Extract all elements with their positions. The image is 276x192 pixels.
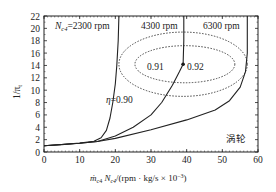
y-axis-label: 1/πt: [12, 85, 23, 99]
x-tick-label: 30: [146, 155, 156, 165]
y-tick-label: 4: [35, 123, 40, 133]
y-tick-label: 0: [35, 148, 40, 158]
svg-text:1/πt: 1/πt: [12, 85, 23, 99]
y-tick-label: 14: [31, 61, 41, 71]
y-tick-label: 8: [35, 98, 40, 108]
svg-text:ṁc4 Nc4/(rpm · kg/s × 10−3): ṁc4 Nc4/(rpm · kg/s × 10−3): [90, 173, 187, 184]
plot-area: [44, 16, 247, 146]
x-tick-label: 0: [42, 155, 47, 165]
speed-line: [44, 16, 119, 146]
labels: Nc4=2300 rpm 4300 rpm 6300 rpm η=0.90 0.…: [54, 21, 246, 144]
x-tick-label: 50: [218, 155, 228, 165]
y-tick-label: 12: [31, 73, 41, 83]
x-tick-label: 20: [111, 155, 121, 165]
label-eta-091: 0.91: [147, 62, 164, 72]
chart-svg: 01020304050600246810121416182022 Nc4=230…: [0, 0, 276, 192]
y-tick-label: 22: [31, 12, 41, 22]
label-6300rpm: 6300 rpm: [203, 21, 240, 31]
y-tick-label: 6: [35, 110, 40, 120]
label-turbine: 涡轮: [226, 133, 246, 144]
y-tick-label: 18: [31, 36, 41, 46]
label-2300rpm: Nc4=2300 rpm: [54, 21, 110, 32]
y-tick-label: 16: [31, 49, 41, 59]
turbine-map-chart: 01020304050600246810121416182022 Nc4=230…: [0, 0, 276, 192]
plot-frame: [44, 16, 258, 152]
x-tick-label: 40: [182, 155, 192, 165]
x-tick-label: 60: [253, 155, 263, 165]
label-4300rpm: 4300 rpm: [141, 21, 178, 31]
label-eta-092: 0.92: [187, 62, 204, 72]
x-axis-label: ṁc4 Nc4/(rpm · kg/s × 10−3): [90, 173, 187, 184]
y-tick-label: 2: [35, 135, 40, 145]
y-tick-label: 10: [31, 86, 41, 96]
speed-line: [44, 16, 247, 146]
x-tick-label: 10: [75, 155, 85, 165]
label-eta-090: η=0.90: [106, 95, 133, 105]
y-tick-label: 20: [31, 24, 41, 34]
